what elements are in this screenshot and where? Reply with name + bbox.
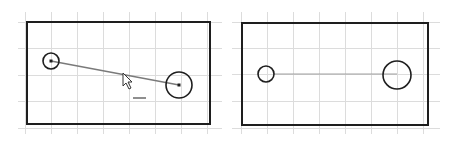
right-panel-after (232, 12, 440, 134)
center-handle[interactable] (178, 84, 181, 87)
center-handle[interactable] (50, 60, 53, 63)
grid (232, 12, 440, 134)
connector-line[interactable] (51, 61, 179, 85)
grid (18, 12, 222, 134)
left-panel-before (18, 12, 222, 134)
diagram-canvas (0, 0, 459, 144)
